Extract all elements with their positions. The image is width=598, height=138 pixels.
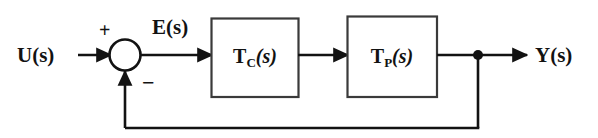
controller-block-argument: (s) bbox=[256, 45, 277, 67]
input-signal-symbol: U bbox=[17, 43, 32, 67]
block-diagram-graphics bbox=[0, 0, 598, 138]
error-signal-argument: (s) bbox=[166, 15, 188, 39]
summing-junction-circle bbox=[110, 40, 141, 71]
plant-block-subscript: P bbox=[384, 55, 392, 70]
output-signal-label: Y(s) bbox=[535, 45, 572, 66]
plant-block-argument: (s) bbox=[392, 45, 413, 67]
summing-junction-plus-sign: + bbox=[99, 20, 110, 40]
output-signal-argument: (s) bbox=[550, 43, 572, 67]
summing-junction-minus-sign: − bbox=[142, 72, 155, 94]
block-diagram-canvas: U(s) E(s) Y(s) + − TC(s) TP(s) bbox=[0, 0, 598, 138]
controller-block-subscript: C bbox=[246, 55, 255, 70]
error-signal-label: E(s) bbox=[152, 17, 188, 38]
controller-block-label: TC(s) bbox=[211, 46, 299, 66]
output-signal-symbol: Y bbox=[535, 43, 550, 67]
controller-block-symbol: T bbox=[233, 45, 246, 67]
plant-block-label: TP(s) bbox=[347, 46, 437, 66]
input-signal-label: U(s) bbox=[17, 45, 54, 66]
plant-block-symbol: T bbox=[371, 45, 384, 67]
input-signal-argument: (s) bbox=[32, 43, 54, 67]
error-signal-symbol: E bbox=[152, 15, 166, 39]
